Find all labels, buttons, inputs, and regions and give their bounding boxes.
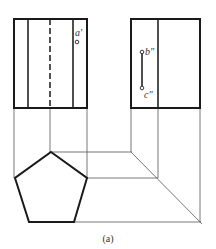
top-view-pentagon: [15, 152, 87, 222]
projection-diagram: a' b" c" (a): [0, 0, 216, 249]
point-a-prime: [75, 40, 79, 44]
top-view: [15, 152, 87, 222]
front-view: a': [14, 19, 87, 108]
label-a-prime: a': [75, 27, 83, 38]
point-b-double-prime: [140, 50, 144, 54]
projection-lines: [14, 108, 202, 224]
miter-line: [131, 152, 202, 224]
label-c-double-prime: c": [144, 89, 153, 100]
side-view: b" c": [131, 19, 200, 108]
label-b-double-prime: b": [145, 46, 155, 57]
figure-caption: (a): [102, 233, 113, 245]
